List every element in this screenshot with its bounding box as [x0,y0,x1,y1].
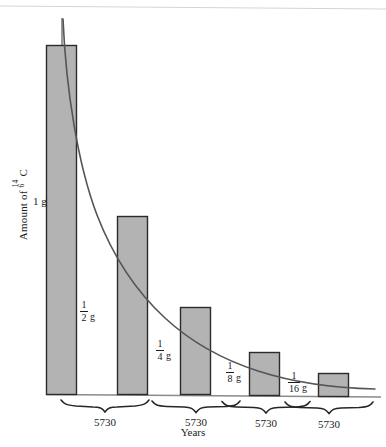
fraction-denominator: 2 [81,313,88,323]
bar-1g [47,46,77,395]
y-axis-title: Amount of 146C [16,145,29,265]
isotope-atomic-number: 6 [17,183,25,187]
half-life-braces [61,400,373,414]
fraction-numerator: 1 [81,300,88,310]
bar-label-1g: 1 g [33,196,47,207]
fraction-one-eighth: 1 8 [226,361,234,384]
bar-label-sixteenth-g: 1 16 g [288,371,307,394]
isotope-notation: 146 [16,176,27,187]
bar-half-g [118,217,148,395]
chart-canvas [0,0,386,447]
fraction-denominator: 4 [157,352,164,362]
fraction-one-half: 1 2 [80,300,88,323]
isotope-symbol: C [17,169,29,177]
fraction-numerator: 1 [157,339,164,349]
bar-quarter-g [181,308,211,395]
fraction-denominator: 16 [288,384,300,394]
decay-chart-figure: Amount of 146C 1 g 1 2 g 1 4 g 1 8 g 1 [0,0,386,447]
brace-2 [152,401,240,413]
bar-label-eighth-g: 1 8 g [226,361,241,384]
decay-curve [63,19,375,389]
bar-eighth-g [250,353,280,396]
x-axis-title: Years [0,427,386,438]
unit-gram: g [302,382,307,394]
fraction-numerator: 1 [227,361,234,371]
fraction-one-sixteenth: 1 16 [288,371,300,394]
unit-gram: g [166,350,171,362]
y-axis-title-prefix: Amount of [17,187,29,240]
unit-gram: g [90,311,95,323]
brace-1 [61,400,149,412]
fraction-numerator: 1 [291,371,298,381]
page-scan-line [0,6,386,9]
unit-gram: g [236,372,241,384]
brace-4 [285,402,373,414]
bar-label-half-g: 1 2 g [80,300,95,323]
bar-label-quarter-g: 1 4 g [156,339,171,362]
fraction-denominator: 8 [227,374,234,384]
bar-label-1g-text: 1 g [33,195,47,207]
fraction-one-quarter: 1 4 [156,339,164,362]
